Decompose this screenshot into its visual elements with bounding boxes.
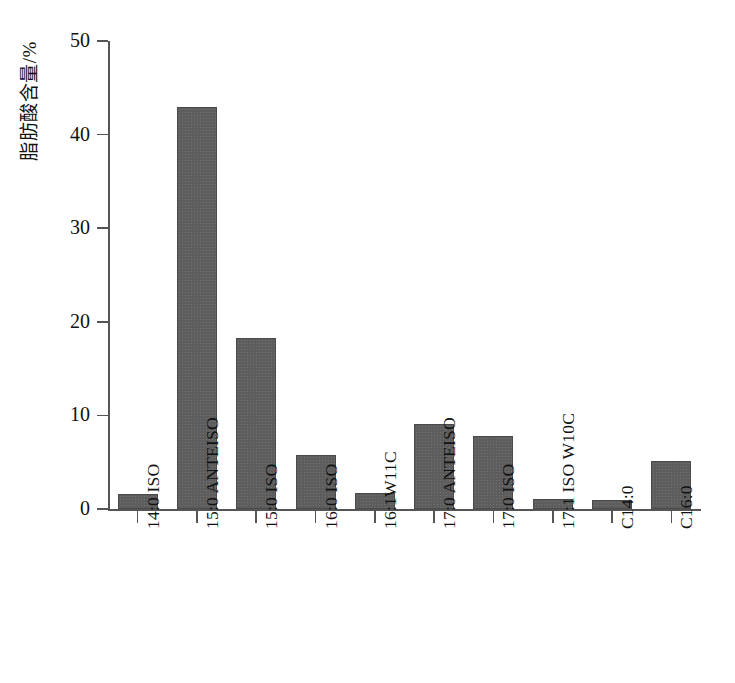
y-axis-tick bbox=[97, 40, 108, 42]
x-axis-tick bbox=[315, 510, 317, 523]
x-axis-tick bbox=[137, 510, 139, 523]
y-axis-tick bbox=[97, 227, 108, 229]
y-axis-tick bbox=[97, 321, 108, 323]
x-axis-tick bbox=[611, 510, 613, 523]
x-axis-tick bbox=[552, 510, 554, 523]
x-axis-tick-label-text: 15:0 ANTEISO bbox=[204, 417, 222, 529]
x-axis-tick-label-text: 17:0 ISO bbox=[500, 464, 518, 529]
x-axis-tick bbox=[255, 510, 257, 523]
x-axis-tick-label-text: 15:0 ISO bbox=[263, 464, 281, 529]
y-axis-tick bbox=[97, 134, 108, 136]
x-axis-tick bbox=[433, 510, 435, 523]
x-axis-tick bbox=[196, 510, 198, 523]
x-axis-tick bbox=[671, 510, 673, 523]
y-axis-tick bbox=[97, 508, 108, 510]
bar-chart-figure: 脂肪酸含量/% 01020304050 14:0 ISO15:0 ANTEISO… bbox=[0, 0, 735, 683]
bar-series bbox=[0, 0, 735, 683]
x-axis-tick-label-text: C14:0 bbox=[619, 485, 637, 529]
x-axis-tick-label-text: C16:0 bbox=[678, 485, 696, 529]
y-axis-tick bbox=[97, 415, 108, 417]
x-axis-tick bbox=[493, 510, 495, 523]
x-axis-tick-label-text: 16:1W11C bbox=[382, 451, 400, 529]
x-axis-tick bbox=[374, 510, 376, 523]
x-axis-tick-label-text: 17:1 ISO W10C bbox=[560, 413, 578, 529]
x-axis-tick-label-text: 17:0 ANTEISO bbox=[441, 417, 459, 529]
x-axis-tick-label-text: 16:0 ISO bbox=[323, 464, 341, 529]
x-axis-tick-label-text: 14:0 ISO bbox=[145, 464, 163, 529]
